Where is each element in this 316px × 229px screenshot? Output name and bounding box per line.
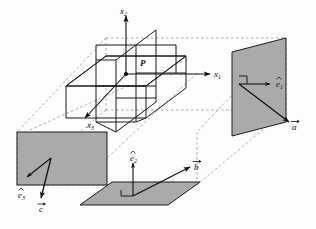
label-vector-a: a xyxy=(291,120,300,132)
label-vector-b: b xyxy=(193,160,202,172)
label-a-text: a xyxy=(292,122,297,132)
vector-diagram-figure: x2 x1 x3 P e1 e2 xyxy=(0,0,316,229)
label-axis-x2: x2 xyxy=(119,6,127,17)
label-axis-x3: x3 xyxy=(86,120,94,131)
point-p-marker xyxy=(124,72,128,76)
label-unit-e2: e2 xyxy=(130,151,137,164)
label-c-text: c xyxy=(39,204,43,214)
svg-text:x2: x2 xyxy=(119,6,127,17)
label-vector-c: c xyxy=(38,202,46,214)
b-arrow-head xyxy=(199,160,201,163)
label-x3-sub: 3 xyxy=(90,124,94,131)
left-projection-plane xyxy=(17,132,107,185)
label-p-text: P xyxy=(140,58,146,68)
label-unit-e3: e3 xyxy=(18,188,25,201)
diagram-canvas: x2 x1 x3 P e1 e2 xyxy=(0,0,316,229)
label-e1-sub: 1 xyxy=(280,83,283,90)
a-arrow-head xyxy=(297,120,299,123)
label-e2-sub: 2 xyxy=(134,157,137,164)
label-x1-sub: 1 xyxy=(218,73,221,80)
c-arrow-head xyxy=(43,202,45,205)
label-point-p: P xyxy=(140,58,146,68)
svg-text:x3: x3 xyxy=(86,120,94,131)
label-b-text: b xyxy=(194,162,199,172)
label-axis-x1: x1 xyxy=(213,69,221,80)
svg-text:e3: e3 xyxy=(18,190,25,201)
svg-text:e2: e2 xyxy=(130,153,137,164)
svg-text:x1: x1 xyxy=(213,69,221,80)
label-x2-sub: 2 xyxy=(124,10,127,17)
label-e3-sub: 3 xyxy=(21,194,25,201)
